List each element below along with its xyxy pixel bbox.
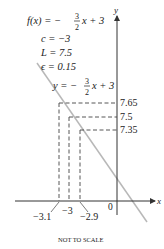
L-value: L = 7.5 [40, 47, 72, 58]
svg-text:f(x) = −: f(x) = − [27, 15, 61, 27]
diagram: f(x) = − 3 2 x + 3 c = −3 L = 7.5 ϵ = 0.… [0, 0, 164, 249]
x-tick-3: −3 [62, 205, 73, 216]
y-axis-label: y [113, 5, 118, 15]
frac-den: 2 [75, 23, 79, 32]
y-tick-765: 7.65 [120, 97, 138, 108]
function-rhs: x + 3 [81, 15, 104, 26]
line-frac-num: 3 [85, 77, 89, 86]
y-tick-75: 7.5 [120, 111, 133, 122]
frac-num: 3 [75, 12, 79, 21]
not-to-scale-note: NOT TO SCALE [58, 236, 104, 243]
epsilon-value: ϵ = 0.15 [41, 61, 76, 72]
c-value: c = −3 [41, 33, 70, 44]
x-tick-29: −2.9 [80, 211, 98, 222]
x-axis-label: x [156, 196, 161, 206]
y-tick-735: 7.35 [120, 124, 138, 135]
function-lhs: f(x) = − [27, 15, 61, 27]
origin-label: 0 [108, 202, 113, 212]
line-label-lhs: y = − [52, 80, 77, 91]
x-tick-31: −3.1 [33, 211, 51, 222]
line-frac-den: 2 [85, 88, 89, 97]
line-label-rhs: x + 3 [91, 80, 114, 91]
